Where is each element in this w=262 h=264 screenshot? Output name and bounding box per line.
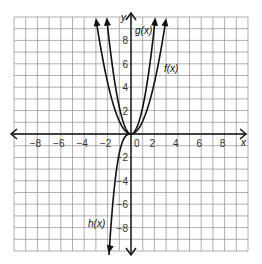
function-graph: −8−6−4−202468−8−6−4−22468 g(x) f(x) h(x)… <box>0 0 262 264</box>
x-tick-label: 0 <box>134 138 140 149</box>
x-tick-label: −4 <box>76 138 88 149</box>
y-tick-label: 8 <box>122 35 128 46</box>
x-tick-label: 4 <box>173 138 179 149</box>
y-axis-label: y <box>120 12 127 23</box>
y-tick-label: 4 <box>122 82 128 93</box>
h-down-arrow-icon <box>107 245 114 254</box>
f-right-arrow-icon <box>161 18 168 26</box>
f-left-arrow-icon <box>94 18 101 26</box>
x-axis-label: x <box>240 137 247 148</box>
x-tick-label: −2 <box>100 138 112 149</box>
h-label: h(x) <box>88 218 105 229</box>
y-tick-label: 6 <box>122 59 128 70</box>
x-tick-label: −8 <box>30 138 42 149</box>
y-tick-label: −4 <box>117 176 129 187</box>
x-tick-label: 8 <box>220 138 226 149</box>
y-tick-label: −6 <box>117 199 129 210</box>
g-label: g(x) <box>135 25 152 36</box>
f-label: f(x) <box>164 63 178 74</box>
y-tick-label: −8 <box>117 223 129 234</box>
y-tick-label: 2 <box>122 106 128 117</box>
x-tick-label: 6 <box>196 138 202 149</box>
x-tick-label: −6 <box>53 138 65 149</box>
x-tick-label: 2 <box>150 138 156 149</box>
